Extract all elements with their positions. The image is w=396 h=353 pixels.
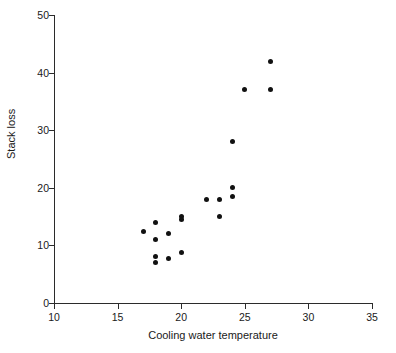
x-axis-title: Cooling water temperature [54, 330, 372, 341]
y-axis-title: Stack loss [6, 109, 17, 159]
y-tick [49, 188, 55, 189]
x-tick [118, 303, 119, 309]
x-tick-label: 10 [48, 312, 60, 323]
y-axis-line [54, 15, 55, 304]
x-tick-label: 25 [239, 312, 251, 323]
data-point [141, 229, 146, 234]
y-tick-label: 30 [37, 125, 49, 136]
y-tick-label: 10 [37, 240, 49, 251]
y-tick [49, 245, 55, 246]
data-point [153, 237, 158, 242]
x-tick [181, 303, 182, 309]
data-point [153, 260, 158, 265]
x-tick [372, 303, 373, 309]
y-tick-label: 40 [37, 67, 49, 78]
x-tick-label: 20 [175, 312, 187, 323]
data-point [153, 220, 158, 225]
data-point [166, 256, 171, 261]
data-point [268, 87, 273, 92]
scatter-plot-figure: 01020304050 101520253035 Cooling water t… [0, 0, 396, 353]
data-point [204, 197, 209, 202]
data-point [268, 59, 273, 64]
data-point [179, 250, 184, 255]
x-tick [54, 303, 55, 309]
y-tick-label: 50 [37, 10, 49, 21]
data-point [153, 254, 158, 259]
x-tick [245, 303, 246, 309]
x-tick-label: 35 [366, 312, 378, 323]
x-tick-label: 30 [303, 312, 315, 323]
y-tick [49, 130, 55, 131]
data-point [217, 214, 222, 219]
plot-area: 01020304050 101520253035 [54, 15, 372, 303]
x-tick [308, 303, 309, 309]
y-tick-label: 0 [43, 298, 49, 309]
data-point [242, 87, 247, 92]
data-point [230, 185, 235, 190]
x-axis-line [54, 303, 373, 304]
y-tick-label: 20 [37, 183, 49, 194]
data-point [179, 217, 184, 222]
y-tick [49, 73, 55, 74]
x-tick-label: 15 [112, 312, 124, 323]
data-point [217, 197, 222, 202]
y-tick [49, 15, 55, 16]
data-point [230, 194, 235, 199]
data-point [230, 139, 235, 144]
data-point [166, 231, 171, 236]
